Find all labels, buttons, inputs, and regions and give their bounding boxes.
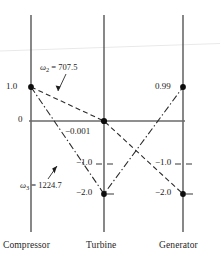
node-generator-minus-two <box>180 191 186 197</box>
station-label-compressor: Compressor <box>3 240 50 250</box>
label-generator-minus-two: −2.0 <box>155 187 171 197</box>
figure-canvas: 1.0 0 −0.001 −1.0 −2.0 0.99 −1.0 −2.0 ω2… <box>0 0 220 265</box>
omega3-value: = 1224.7 <box>29 180 61 190</box>
arrowhead-omega2 <box>56 86 61 91</box>
annotation-omega2: ω2 = 707.5 <box>40 62 77 73</box>
annotation-omega3: ω3 = 1224.7 <box>20 180 62 191</box>
station-label-turbine: Turbine <box>86 240 116 250</box>
label-turbine-minus-two: −2.0 <box>76 187 92 197</box>
node-compressor-1-0 <box>28 84 34 90</box>
label-generator-minus-one: −1.0 <box>155 157 171 167</box>
label-turbine-minus-one: −1.0 <box>76 157 92 167</box>
omega2-value: = 707.5 <box>49 62 77 72</box>
scan-artifact-line <box>0 44 220 52</box>
node-turbine-minus-two <box>101 191 107 197</box>
mode-shape-plot <box>0 0 220 265</box>
station-label-generator: Generator <box>159 240 198 250</box>
mode-curve-omega3 <box>31 87 183 194</box>
label-compressor-top: 1.0 <box>6 81 17 91</box>
label-turbine-zero: −0.001 <box>65 126 90 136</box>
label-generator-top: 0.99 <box>155 81 171 91</box>
mode-curve-omega2 <box>31 87 183 194</box>
node-turbine-zero <box>101 118 107 124</box>
label-zero: 0 <box>18 114 23 124</box>
node-generator-0-99 <box>180 84 186 90</box>
